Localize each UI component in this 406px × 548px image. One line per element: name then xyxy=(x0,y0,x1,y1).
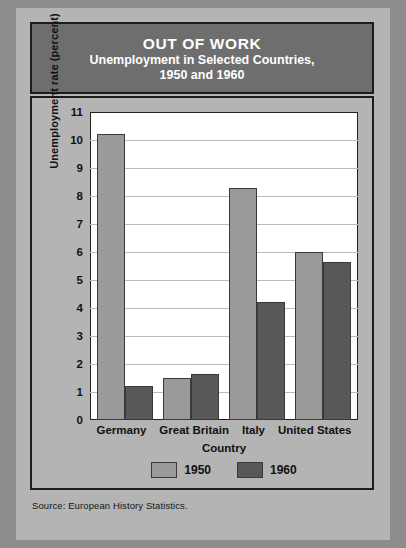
bar-italy-1950 xyxy=(229,188,257,420)
chart-card: OUT OF WORK Unemployment in Selected Cou… xyxy=(16,8,390,540)
chart-legend: 19501960 xyxy=(90,462,358,478)
legend-swatch-1960 xyxy=(237,462,263,478)
y-axis-tick-label: 3 xyxy=(77,330,83,342)
bar-groups xyxy=(90,112,358,420)
y-axis-tick-label: 8 xyxy=(77,190,83,202)
x-axis-tick-label: United States xyxy=(278,424,352,436)
y-axis-tick-label: 4 xyxy=(77,302,83,314)
y-axis-tick-label: 0 xyxy=(77,414,83,426)
x-axis-title: Country xyxy=(90,442,358,454)
x-axis-tick-label: Great Britain xyxy=(159,424,229,436)
y-axis-tick-label: 6 xyxy=(77,246,83,258)
legend-label-1950: 1950 xyxy=(184,463,211,477)
bar-united-states-1960 xyxy=(323,262,351,420)
chart-title-band: OUT OF WORK Unemployment in Selected Cou… xyxy=(30,22,374,94)
chart-subtitle-line1: Unemployment in Selected Countries, xyxy=(89,53,314,68)
bar-great-britain-1950 xyxy=(163,378,191,420)
bar-group xyxy=(229,112,285,420)
y-axis-tick-label: 7 xyxy=(77,218,83,230)
legend-label-1960: 1960 xyxy=(270,463,297,477)
y-axis-tick-label: 2 xyxy=(77,358,83,370)
chart-subtitle-line2: 1950 and 1960 xyxy=(160,68,245,83)
bar-group xyxy=(295,112,351,420)
x-axis-tick-labels: GermanyGreat BritainItalyUnited States xyxy=(90,424,358,436)
bar-germany-1950 xyxy=(97,134,125,420)
y-axis-tick-label: 11 xyxy=(71,106,83,118)
source-note: Source: European History Statistics. xyxy=(32,500,188,511)
y-axis-title: Unemployment rate (percent) xyxy=(48,0,60,186)
legend-item-1960: 1960 xyxy=(237,462,297,478)
y-axis-tick-label: 9 xyxy=(77,162,83,174)
chart-title-main: OUT OF WORK xyxy=(143,34,262,53)
bar-united-states-1950 xyxy=(295,252,323,420)
legend-swatch-1950 xyxy=(151,462,177,478)
bar-great-britain-1960 xyxy=(191,374,219,420)
x-axis-tick-label: Italy xyxy=(242,424,265,436)
bar-group xyxy=(97,112,153,420)
bar-group xyxy=(163,112,219,420)
x-axis-tick-label: Germany xyxy=(96,424,146,436)
chart-panel: Unemployment rate (percent) 012345678910… xyxy=(30,96,374,490)
y-axis-tick-label: 5 xyxy=(77,274,83,286)
legend-item-1950: 1950 xyxy=(151,462,211,478)
bar-italy-1960 xyxy=(257,302,285,420)
plot-area: 01234567891011 xyxy=(90,112,358,420)
y-axis-tick-label: 10 xyxy=(70,134,83,146)
bar-germany-1960 xyxy=(125,386,153,420)
y-axis-tick-label: 1 xyxy=(77,386,83,398)
